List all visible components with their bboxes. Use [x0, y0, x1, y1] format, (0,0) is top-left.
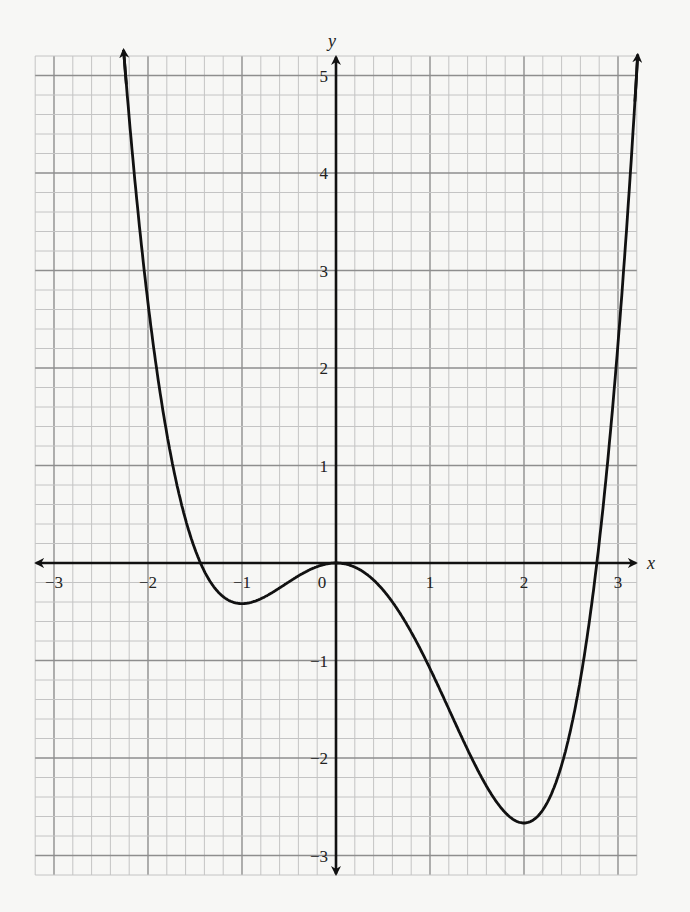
y-tick-label: 5 [320, 67, 329, 86]
y-tick-label: −3 [310, 847, 328, 866]
x-tick-label: −2 [139, 573, 157, 592]
y-tick-label: 4 [320, 164, 329, 183]
y-tick-label: −1 [310, 652, 328, 671]
x-tick-label: −1 [233, 573, 251, 592]
function-graph: −3−2−10123−3−2−112345 x y [0, 0, 690, 912]
function-curve [124, 50, 638, 823]
y-tick-label: 3 [320, 262, 329, 281]
curve-right-arrow [635, 55, 638, 102]
x-tick-label: 3 [614, 573, 623, 592]
x-tick-label: −3 [45, 573, 63, 592]
y-tick-label: 1 [320, 457, 329, 476]
y-tick-label: 2 [320, 359, 329, 378]
x-tick-label: 2 [520, 573, 529, 592]
x-tick-label: 0 [318, 573, 327, 592]
curve-left-arrow [124, 50, 127, 85]
y-axis-label: y [326, 31, 336, 51]
y-tick-label: −2 [310, 749, 328, 768]
curve [124, 50, 638, 823]
x-axis-label: x [646, 553, 655, 573]
x-tick-label: 1 [426, 573, 435, 592]
